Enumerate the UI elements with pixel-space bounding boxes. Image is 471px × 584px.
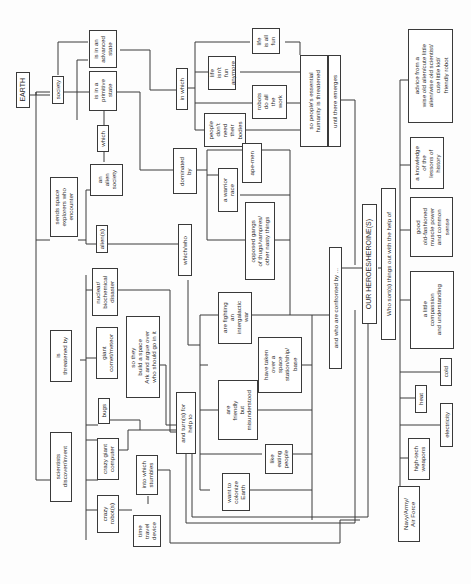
node-is-threatened-by: is threatened by	[50, 330, 72, 382]
node-nuclear-disaster: nuclear/ biochemical disaster	[92, 268, 118, 316]
node-opposed-gangs: opposed gangs of thugs/vampires/ other n…	[245, 202, 275, 280]
node-society: society	[52, 76, 64, 104]
node-advice-from-wise: advice from a wise old alien/cute little…	[408, 29, 453, 123]
node-is-in-advanced-state: is in an advanced state	[89, 30, 117, 68]
node-which: which	[97, 125, 109, 152]
node-friendly-misunderstood: are friendly but misunderstood	[218, 380, 258, 440]
node-muscle-power: good old-fashioned muscle power and comm…	[410, 197, 453, 257]
node-knowledge-of-history: a knowledge of the lessons of history	[410, 137, 444, 189]
node-our-heroes: OUR HEROES/HEROINE(S)	[362, 204, 377, 324]
node-aliens: alien(s)	[96, 225, 108, 253]
node-so-they-build-ark: so they build a space Ark and argue over…	[126, 316, 160, 398]
node-and-turns-for-help: and turn(s) for help to	[176, 392, 196, 454]
node-high-tech-weapons: high-tech weapons	[408, 438, 430, 480]
node-bugs: bugs	[98, 398, 110, 424]
node-who-sorts-things-out: Who sort(s) things out with the help of	[381, 188, 396, 340]
node-electricity: electricity	[440, 403, 453, 447]
node-heat: heat	[415, 385, 427, 413]
node-crazy-giant-computer: crazy giant computer	[97, 438, 119, 480]
node-sends-space-explorers: sends space explorers who encounter	[50, 177, 78, 237]
node-people-dont-need-bodies: people don't need their bodies	[204, 113, 246, 147]
node-taken-over-space-station: have taken over a space station/ship/ ba…	[258, 337, 302, 393]
node-which-who: which/who	[178, 224, 192, 276]
node-confronted-by: and who are confronted by ...	[329, 247, 342, 369]
node-until-there-emerges: until there emerges	[328, 55, 341, 147]
node-life-is-all-fun: life is all fun	[252, 28, 280, 54]
node-into-which-stumbles: into which stumbles	[136, 455, 158, 495]
node-like-eating-people: like eating people	[265, 444, 293, 474]
node-ape-men: ape-men	[242, 143, 262, 183]
node-life-isnt-fun: life isn't fun anymore	[208, 56, 236, 90]
plot-flowchart-diagram: EARTH sends space explorers who encounte…	[0, 0, 471, 584]
node-dominated-by: dominated by	[173, 148, 197, 194]
node-time-travel-device: time travel device	[133, 515, 161, 547]
node-an-alien-society: an alien society	[90, 164, 123, 196]
node-navy-army-airforce: Navy/Army/ Air Force	[398, 486, 420, 542]
node-cold: cold	[440, 358, 452, 386]
node-earth: EARTH	[16, 72, 30, 108]
node-is-in-primitive-state: is in a primitive state	[89, 71, 117, 111]
node-robots-do-all-work: robots do all the work	[252, 85, 287, 119]
node-fighting-intergalactic-war: are fighting an intergalactic war	[218, 292, 252, 344]
node-crazy-robots: crazy robot(s)	[97, 495, 119, 533]
node-compassion: a little compassion and understanding	[410, 271, 454, 349]
node-giant-comet: giant comet/meteor	[96, 327, 118, 379]
node-essential-humanity-threatened: so people's essential humanity is threat…	[300, 55, 328, 147]
node-in-which: in which	[176, 68, 188, 110]
node-want-to-colonize: want to colonize Earth	[222, 473, 250, 511]
node-scientists-discover: scientists discover/invent	[50, 432, 72, 502]
node-warrior-race: a warrior race	[218, 168, 238, 212]
